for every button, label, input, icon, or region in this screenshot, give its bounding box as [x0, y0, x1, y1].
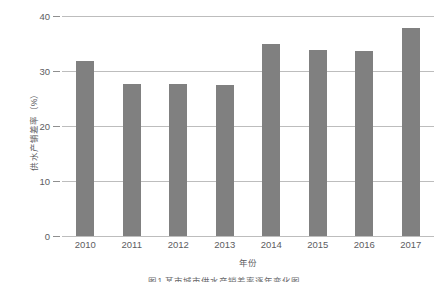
bar-chart-figure: 供水产销差率（%） 40 30 20 10 0	[0, 0, 448, 282]
bar-slot	[248, 16, 295, 236]
plot-area: 40 30 20 10 0	[62, 16, 434, 236]
x-tick-label: 2012	[155, 239, 202, 250]
bar-slot	[202, 16, 249, 236]
bar-slot	[388, 16, 435, 236]
x-axis-ticks: 2010 2011 2012 2013 2014 2015 2016 2017	[62, 239, 434, 250]
y-tickmark	[53, 126, 60, 127]
bar[interactable]	[309, 50, 327, 236]
x-tick-label: 2011	[109, 239, 156, 250]
y-tickmark	[53, 71, 60, 72]
x-tick-label: 2017	[388, 239, 435, 250]
y-tick-label: 20	[39, 121, 50, 132]
x-tick-label: 2010	[62, 239, 109, 250]
gridline	[62, 236, 434, 237]
figure-caption: 图1 某市城市供水产销差率逐年变化图	[0, 274, 448, 282]
bar-slot	[295, 16, 342, 236]
y-tick-label: 40	[39, 11, 50, 22]
y-tick-label: 0	[45, 231, 50, 242]
x-tick-label: 2014	[248, 239, 295, 250]
y-tickmark	[53, 181, 60, 182]
y-tick-label: 30	[39, 66, 50, 77]
bar[interactable]	[355, 51, 373, 236]
bar[interactable]	[123, 84, 141, 236]
x-tick-label: 2013	[202, 239, 249, 250]
bar-slot	[155, 16, 202, 236]
bar[interactable]	[76, 61, 94, 236]
y-axis-title: 供水产销差率（%）	[27, 50, 39, 210]
x-tick-label: 2016	[341, 239, 388, 250]
bar-slot	[341, 16, 388, 236]
bar-slot	[62, 16, 109, 236]
bar[interactable]	[262, 44, 280, 236]
x-axis-title: 年份	[62, 256, 434, 268]
bar[interactable]	[402, 28, 420, 236]
bar-series	[62, 16, 434, 236]
bar[interactable]	[216, 85, 234, 236]
x-tick-label: 2015	[295, 239, 342, 250]
bar-slot	[109, 16, 156, 236]
y-tickmark	[53, 16, 60, 17]
y-tick-label: 10	[39, 176, 50, 187]
bar[interactable]	[169, 84, 187, 236]
y-tickmark	[53, 236, 60, 237]
